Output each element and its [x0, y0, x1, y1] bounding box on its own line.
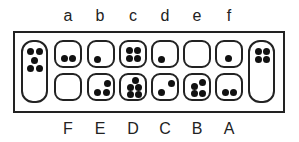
top-label-b: b: [90, 8, 110, 24]
pit-F[interactable]: [54, 73, 82, 101]
pit-A[interactable]: [215, 73, 243, 101]
stone: [127, 84, 134, 91]
pit-b[interactable]: [87, 40, 115, 68]
stone: [263, 56, 270, 63]
stone: [191, 90, 198, 97]
stone: [135, 91, 142, 98]
stone: [222, 89, 229, 96]
stone: [36, 48, 43, 55]
stone: [263, 48, 270, 55]
left-store: [21, 40, 48, 103]
pit-e[interactable]: [183, 40, 211, 68]
top-label-d: d: [155, 8, 175, 24]
stone: [230, 89, 237, 96]
pit-B[interactable]: [183, 73, 211, 101]
stone: [168, 80, 175, 87]
stone: [132, 77, 139, 84]
stone: [31, 57, 38, 64]
stone: [69, 55, 76, 62]
right-store: [248, 40, 275, 103]
pit-D[interactable]: [119, 73, 147, 101]
board-frame: [13, 31, 285, 113]
bottom-label-E: E: [90, 121, 110, 137]
pit-d[interactable]: [151, 40, 179, 68]
top-label-a: a: [58, 8, 78, 24]
stone: [127, 91, 134, 98]
stone: [158, 89, 165, 96]
stone: [191, 83, 198, 90]
stone: [225, 55, 232, 62]
stone: [255, 56, 262, 63]
stone: [103, 89, 110, 96]
pit-f[interactable]: [215, 40, 243, 68]
stone: [104, 80, 111, 87]
stone: [158, 56, 165, 63]
stone: [134, 55, 141, 62]
pit-E[interactable]: [87, 73, 115, 101]
stone: [199, 79, 206, 86]
stone: [135, 84, 142, 91]
pit-a[interactable]: [54, 40, 82, 68]
bottom-label-C: C: [155, 121, 175, 137]
top-label-c: c: [123, 8, 143, 24]
top-label-f: f: [219, 8, 239, 24]
stone: [27, 48, 34, 55]
bottom-label-A: A: [219, 121, 239, 137]
stone: [61, 55, 68, 62]
top-label-e: e: [187, 8, 207, 24]
stone: [94, 56, 101, 63]
stone: [126, 47, 133, 54]
bottom-label-F: F: [58, 121, 78, 137]
stone: [134, 47, 141, 54]
bottom-label-B: B: [187, 121, 207, 137]
stone: [199, 90, 206, 97]
pit-c[interactable]: [119, 40, 147, 68]
stone: [27, 65, 34, 72]
bottom-label-D: D: [123, 121, 143, 137]
pit-C[interactable]: [151, 73, 179, 101]
stone: [255, 48, 262, 55]
stone: [94, 89, 101, 96]
stone: [126, 55, 133, 62]
stone: [36, 65, 43, 72]
